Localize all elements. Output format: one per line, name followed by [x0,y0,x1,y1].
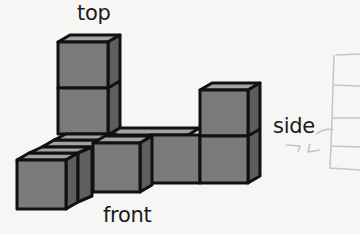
side-view-sketch [286,54,360,170]
front-middle-cube [93,136,152,192]
front-left-cube [17,147,92,209]
tall-tower-right [200,83,260,183]
cube-structure [0,0,360,234]
tall-tower-left [58,35,120,135]
